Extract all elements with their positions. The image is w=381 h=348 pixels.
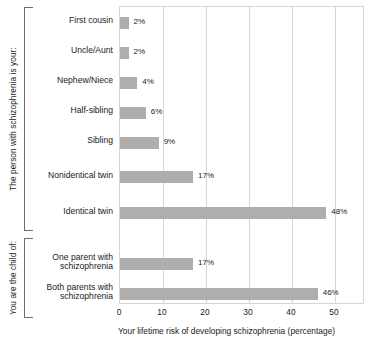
category-label: Nonidentical twin (20, 171, 113, 181)
x-tick-label-10: 10 (150, 307, 174, 317)
category-label: First cousin (20, 16, 113, 26)
schizophrenia-risk-chart: The person with schizophrenia is your: Y… (0, 0, 381, 348)
category-label: Sibling (20, 136, 113, 146)
x-axis-title: Your lifetime risk of developing schizop… (118, 326, 335, 336)
x-tick-label-0: 0 (107, 307, 131, 317)
bar-value-label: 2% (134, 47, 146, 56)
bar-value-label: 9% (164, 137, 176, 146)
bar-value-label: 4% (142, 77, 154, 86)
x-tick-label-30: 30 (236, 307, 260, 317)
bracket-relatives (24, 7, 33, 231)
bar-value-label: 2% (134, 17, 146, 26)
category-label: Uncle/Aunt (20, 46, 113, 56)
bar (120, 107, 146, 119)
category-label: Half-sibling (20, 106, 113, 116)
bar (120, 17, 129, 29)
gridline-30 (249, 7, 250, 303)
bar-value-label: 17% (198, 258, 214, 267)
plot-area (119, 6, 364, 304)
bar (120, 137, 159, 149)
bar-value-label: 6% (151, 107, 163, 116)
bar (120, 288, 318, 300)
x-tick-label-40: 40 (279, 307, 303, 317)
bar (120, 47, 129, 59)
bar-value-label: 46% (323, 288, 339, 297)
category-label: Both parents with schizophrenia (20, 283, 113, 302)
bar (120, 258, 193, 270)
bar-value-label: 48% (331, 207, 347, 216)
bar (120, 171, 193, 183)
bar (120, 207, 326, 219)
x-tick-label-20: 20 (193, 307, 217, 317)
gridline-40 (292, 7, 293, 303)
gridline-50 (335, 7, 336, 303)
bar (120, 77, 137, 89)
category-label: One parent with schizophrenia (20, 253, 113, 272)
group-axis-label-parents: You are the child of: (9, 238, 18, 318)
category-label: Identical twin (20, 207, 113, 217)
bracket-parents (24, 238, 33, 318)
category-label: Nephew/Niece (20, 76, 113, 86)
x-tick-label-50: 50 (322, 307, 346, 317)
group-axis-label-relatives: The person with schizophrenia is your: (9, 7, 18, 231)
bar-value-label: 17% (198, 171, 214, 180)
